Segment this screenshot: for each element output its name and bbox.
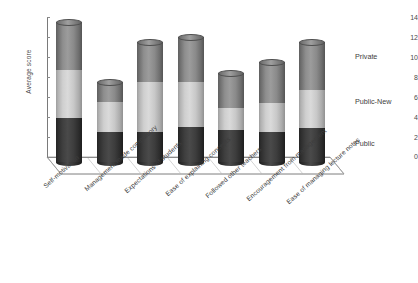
bar-4-segment-private (178, 37, 204, 82)
bar-top-ellipse (56, 19, 82, 26)
bar-top-ellipse (178, 34, 204, 41)
bar-top-ellipse (97, 79, 123, 86)
plot-area: Average score 14 12 10 8 6 4 2 0 Self-mo… (0, 0, 418, 283)
bar-5-segment-private (218, 73, 244, 108)
legend-label-public: Public (355, 139, 375, 148)
legend-label-private: Private (355, 52, 377, 61)
bar-top-ellipse (259, 59, 285, 66)
bar-1-segment-public (56, 118, 82, 162)
bar-top-ellipse (137, 39, 163, 46)
bar-3-segment-private (137, 42, 163, 82)
bar-1-segment-public-new (56, 70, 82, 118)
bar-7-segment-public-new (299, 90, 325, 128)
bar-6-segment-public-new (259, 103, 285, 132)
bar-top-ellipse (299, 39, 325, 46)
bar-1-segment-private (56, 22, 82, 70)
legend-label-public-new: Public-New (355, 97, 391, 106)
bar-6-segment-public (259, 132, 285, 162)
bar-top-ellipse (218, 70, 244, 77)
bar-4-segment-public-new (178, 82, 204, 127)
stacked-cylinder-chart: Average score 14 12 10 8 6 4 2 0 Self-mo… (0, 0, 418, 283)
bar-2-segment-public-new (97, 102, 123, 132)
bar-3-segment-public-new (137, 82, 163, 132)
bar-6-segment-private (259, 62, 285, 103)
bar-7-segment-private (299, 42, 325, 90)
bar-5-segment-public-new (218, 108, 244, 130)
